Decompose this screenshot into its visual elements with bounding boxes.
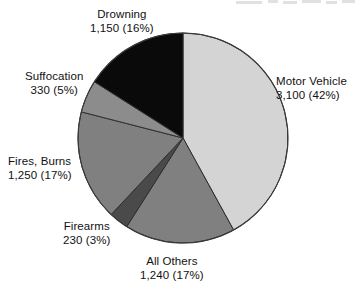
slice-label-suffocation-value: 330 (5%) (25, 84, 83, 98)
slice-label-all-others: All Others 1,240 (17%) (140, 255, 204, 282)
slice-label-all-others-name: All Others (140, 255, 204, 269)
pie-graphic (0, 0, 359, 294)
slice-label-drowning-value: 1,150 (16%) (90, 22, 154, 36)
slice-label-fires-burns-name: Fires, Burns (8, 155, 72, 169)
slice-label-firearms: Firearms 230 (3%) (63, 220, 110, 247)
slice-label-motor-vehicle: Motor Vehicle 3,100 (42%) (276, 75, 347, 102)
slice-label-suffocation-name: Suffocation (25, 70, 83, 84)
pie-slice-group (78, 33, 288, 243)
slice-label-fires-burns: Fires, Burns 1,250 (17%) (8, 155, 72, 182)
slice-label-drowning-name: Drowning (90, 8, 154, 22)
slice-label-fires-burns-value: 1,250 (17%) (8, 169, 72, 183)
slice-label-firearms-value: 230 (3%) (63, 234, 110, 248)
slice-label-suffocation: Suffocation 330 (5%) (25, 70, 83, 97)
slice-label-firearms-name: Firearms (63, 220, 110, 234)
slice-label-motor-vehicle-name: Motor Vehicle (276, 75, 347, 89)
slice-label-drowning: Drowning 1,150 (16%) (90, 8, 154, 35)
pie-chart-figure: Drowning 1,150 (16%) Motor Vehicle 3,100… (0, 0, 359, 294)
slice-label-motor-vehicle-value: 3,100 (42%) (276, 89, 347, 103)
slice-label-all-others-value: 1,240 (17%) (140, 269, 204, 283)
